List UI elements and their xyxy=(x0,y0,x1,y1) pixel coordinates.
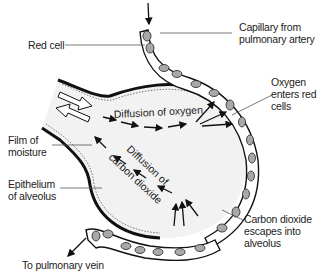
film-label-line2: moisture xyxy=(8,146,47,158)
capillary-label-line1: Capillary from xyxy=(239,21,315,33)
co2-label-line3: alveolus xyxy=(244,237,312,249)
epithelium-label: Epithelium of alveolus xyxy=(8,178,56,202)
oxygen-label-line2: enters red xyxy=(271,88,316,100)
oxygen-enters-label: Oxygen enters red cells xyxy=(271,76,316,112)
capillary-label-line2: pulmonary artery xyxy=(239,33,315,45)
film-of-moisture-label: Film of moisture xyxy=(8,134,47,158)
pulmonary-vein-label: To pulmonary vein xyxy=(22,259,104,271)
co2-label-line2: escapes into xyxy=(244,225,312,237)
artery-inflow-arrow xyxy=(148,3,149,24)
film-label-line1: Film of xyxy=(8,134,47,146)
epithelium-label-line2: of alveolus xyxy=(8,190,56,202)
oxygen-label-line1: Oxygen xyxy=(271,76,316,88)
epithelium-label-line1: Epithelium xyxy=(8,178,56,190)
capillary-label: Capillary from pulmonary artery xyxy=(239,21,315,45)
red-cell-label: Red cell xyxy=(28,39,64,51)
vein-outflow-arrow xyxy=(68,238,86,256)
co2-escapes-label: Carbon dioxide escapes into alveolus xyxy=(244,213,312,249)
oxygen-label-line3: cells xyxy=(271,100,316,112)
co2-label-line1: Carbon dioxide xyxy=(244,213,312,225)
